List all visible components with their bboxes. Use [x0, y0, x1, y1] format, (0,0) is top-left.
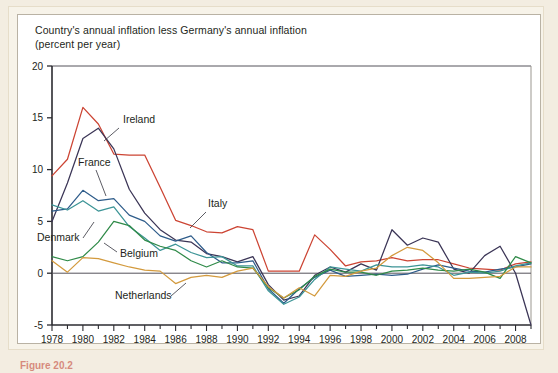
chart-title: Country's annual inflation less Germany'… [35, 24, 505, 38]
figure-caption: Figure 20.2 [20, 360, 73, 371]
chart-title-block: Country's annual inflation less Germany'… [35, 24, 505, 51]
chart-panel [17, 14, 541, 344]
figure-root: Country's annual inflation less Germany'… [0, 0, 558, 373]
chart-subtitle: (percent per year) [35, 38, 505, 52]
